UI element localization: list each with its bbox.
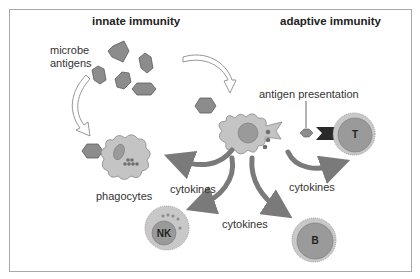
antigen-presentation-label: antigen presentation bbox=[259, 88, 359, 101]
svg-text:B: B bbox=[311, 235, 318, 246]
innate-immunity-title: innate immunity bbox=[92, 15, 180, 28]
immunity-diagram: T NK B bbox=[0, 0, 420, 279]
cytokines-label-right: cytokines bbox=[289, 181, 335, 194]
antigen-hexagon bbox=[82, 144, 103, 158]
phagocytes-label: phagocytes bbox=[96, 190, 152, 203]
hollow-arrow-right bbox=[183, 55, 236, 93]
dendritic-cell bbox=[219, 114, 282, 154]
antigen-hexagon bbox=[195, 98, 216, 113]
svg-text:NK: NK bbox=[157, 228, 172, 239]
antigen-hexagon bbox=[139, 53, 153, 73]
antigen-hexagon bbox=[108, 41, 129, 62]
phagocyte-cell bbox=[101, 135, 150, 180]
cytokine-arrows bbox=[178, 150, 336, 210]
b-cell: B bbox=[292, 218, 336, 262]
antigens-label: antigens bbox=[50, 57, 92, 70]
antigen-hexagon bbox=[92, 66, 106, 84]
nk-cell: NK bbox=[145, 206, 189, 250]
antigen-hexagon bbox=[115, 72, 131, 89]
t-cell: T bbox=[333, 113, 375, 155]
svg-text:T: T bbox=[352, 129, 358, 140]
antigen-hexagon bbox=[132, 83, 156, 95]
cytokines-label-left: cytokines bbox=[170, 183, 216, 196]
hollow-arrow-left bbox=[72, 75, 90, 136]
microbe-label: microbe bbox=[50, 44, 89, 57]
cytokines-label-bottom: cytokines bbox=[222, 218, 268, 231]
adaptive-immunity-title: adaptive immunity bbox=[280, 15, 381, 28]
antigen-presentation-complex bbox=[300, 101, 336, 140]
